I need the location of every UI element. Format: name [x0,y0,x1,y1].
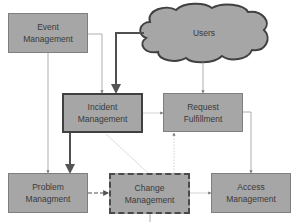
node-label-line1: Change [125,182,175,194]
process-diagram: Users Event Management Incident Manageme… [0,0,296,222]
node-label-line1: Access [226,181,276,193]
node-event-management[interactable]: Event Management [8,13,88,53]
node-request-fulfillment[interactable]: Request Fulfillment [163,93,243,132]
node-access-management[interactable]: Access Management [211,173,291,213]
node-label-line2: Management [125,194,175,206]
node-label-line2: Managment [26,193,71,205]
node-label-line1: Request [184,101,223,113]
edge-request-access [243,112,251,173]
node-problem-management[interactable]: Problem Managment [8,173,88,213]
edge-event-incident [88,34,102,93]
node-change-management[interactable]: Change Management [109,173,190,214]
node-users-label: Users [138,3,270,62]
node-label-line2: Management [23,33,73,45]
node-label-line2: Fulfillment [184,113,223,125]
node-label-line2: Management [78,113,128,125]
node-label-line1: Incident [78,101,128,113]
node-label-line1: Event [23,21,73,33]
node-label-line1: Problem [26,181,71,193]
edge-incident-change [106,134,148,173]
node-label-line2: Management [226,193,276,205]
node-incident-management[interactable]: Incident Management [62,93,143,133]
